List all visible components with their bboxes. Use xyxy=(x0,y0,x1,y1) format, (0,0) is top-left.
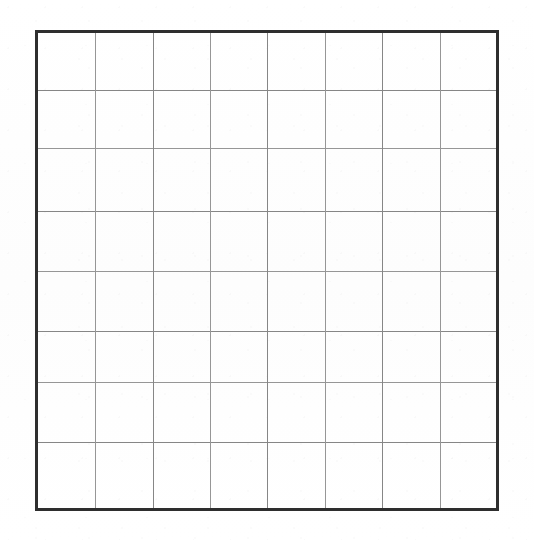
grid-line-vertical xyxy=(95,31,96,510)
grid-cell[interactable] xyxy=(383,271,441,331)
grid-cell[interactable] xyxy=(152,271,210,331)
grid-cell[interactable] xyxy=(440,151,498,211)
grid-cell[interactable] xyxy=(152,31,210,91)
blank-grid xyxy=(36,31,498,510)
grid-cell[interactable] xyxy=(440,91,498,151)
grid-line-vertical xyxy=(382,31,383,510)
grid-cell[interactable] xyxy=(152,211,210,271)
grid-cell[interactable] xyxy=(383,211,441,271)
grid-cell[interactable] xyxy=(440,271,498,331)
grid-cell[interactable] xyxy=(209,151,267,211)
grid-cell[interactable] xyxy=(209,271,267,331)
grid-cell[interactable] xyxy=(325,31,383,91)
grid-cell[interactable] xyxy=(267,91,325,151)
grid-cell[interactable] xyxy=(94,271,152,331)
grid-cell[interactable] xyxy=(94,151,152,211)
grid-cell[interactable] xyxy=(209,450,267,510)
grid-line-vertical xyxy=(210,31,211,510)
grid-cell[interactable] xyxy=(36,450,94,510)
grid-cell[interactable] xyxy=(36,271,94,331)
grid-cell[interactable] xyxy=(267,271,325,331)
grid-cell[interactable] xyxy=(36,151,94,211)
grid-cell[interactable] xyxy=(94,211,152,271)
grid-cell[interactable] xyxy=(267,31,325,91)
grid-cell[interactable] xyxy=(209,211,267,271)
grid-line-vertical xyxy=(267,31,268,510)
grid-cell[interactable] xyxy=(325,211,383,271)
page-canvas xyxy=(0,0,534,540)
grid-cell[interactable] xyxy=(383,91,441,151)
grid-cell[interactable] xyxy=(440,211,498,271)
grid-cell[interactable] xyxy=(152,91,210,151)
grid-cell[interactable] xyxy=(383,450,441,510)
grid-cell[interactable] xyxy=(152,450,210,510)
grid-cell[interactable] xyxy=(267,151,325,211)
grid-line-vertical xyxy=(325,31,326,510)
grid-cell[interactable] xyxy=(152,151,210,211)
grid-cell[interactable] xyxy=(209,31,267,91)
grid-cell[interactable] xyxy=(325,271,383,331)
grid-cell[interactable] xyxy=(36,31,94,91)
grid-cell[interactable] xyxy=(94,91,152,151)
grid-cell[interactable] xyxy=(94,450,152,510)
grid-cell[interactable] xyxy=(36,91,94,151)
grid-cell[interactable] xyxy=(94,31,152,91)
grid-line-vertical xyxy=(440,31,441,510)
grid-cell[interactable] xyxy=(325,91,383,151)
grid-cell[interactable] xyxy=(36,211,94,271)
grid-cell[interactable] xyxy=(440,450,498,510)
grid-line-vertical xyxy=(153,31,154,510)
grid-cell[interactable] xyxy=(383,31,441,91)
grid-cell[interactable] xyxy=(383,151,441,211)
grid-cell[interactable] xyxy=(325,450,383,510)
grid-cell[interactable] xyxy=(209,91,267,151)
grid-cell[interactable] xyxy=(440,31,498,91)
grid-cell[interactable] xyxy=(267,211,325,271)
grid-cell[interactable] xyxy=(267,450,325,510)
grid-cell[interactable] xyxy=(325,151,383,211)
